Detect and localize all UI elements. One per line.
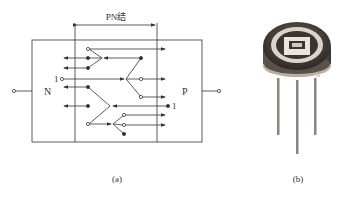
caption-b: (b) [293, 174, 304, 184]
diagram-canvas: PN结 N P 1 1 (a) (b) [0, 0, 341, 197]
right-terminal [217, 89, 220, 92]
photodiode-image [263, 22, 331, 154]
lead-left [277, 78, 280, 135]
lead-center [296, 80, 299, 154]
caption-a: (a) [112, 174, 122, 184]
pn-junction-diagram [16, 23, 218, 142]
junction-label: PN结 [106, 11, 127, 22]
left-terminal [12, 89, 15, 92]
lead-right [314, 78, 317, 135]
n-region-label: N [44, 86, 51, 97]
marker-left: 1 [54, 74, 59, 84]
semiconductor-box [32, 40, 202, 142]
marker-right: 1 [172, 101, 177, 111]
p-region-label: P [182, 86, 188, 97]
